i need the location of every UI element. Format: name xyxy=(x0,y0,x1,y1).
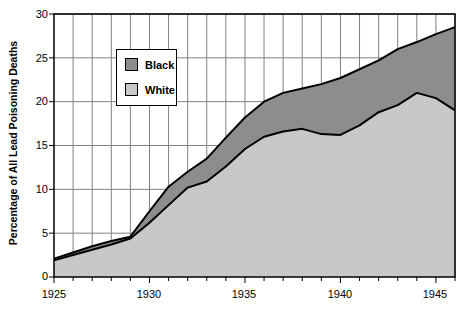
legend-swatch-white-icon xyxy=(125,83,138,96)
legend-label-white: White xyxy=(145,84,175,96)
legend-item-white: White xyxy=(125,83,175,96)
y-tick-label-30: 30 xyxy=(22,9,48,20)
legend-swatch-black-icon xyxy=(125,58,138,71)
y-tick-label-5: 5 xyxy=(22,228,48,239)
x-tick-label-1925: 1925 xyxy=(32,289,76,300)
x-tick-label-1940: 1940 xyxy=(318,289,362,300)
y-tick-label-10: 10 xyxy=(22,184,48,195)
x-tick-label-1930: 1930 xyxy=(127,289,171,300)
x-axis-tick-labels: 1925 1930 1935 1940 1945 xyxy=(0,280,467,309)
x-tick-label-1945: 1945 xyxy=(413,289,457,300)
area-series-layer xyxy=(54,27,455,277)
y-axis-tick-labels: 30 25 20 15 10 5 0 xyxy=(18,0,48,309)
x-tick-label-1935: 1935 xyxy=(222,289,266,300)
plot-area xyxy=(0,0,467,309)
legend: Black White xyxy=(116,49,177,106)
lead-poisoning-area-chart: Percentage of All Lead Poisoning Deaths … xyxy=(0,0,467,309)
legend-item-black: Black xyxy=(125,58,174,71)
y-tick-label-15: 15 xyxy=(22,140,48,151)
legend-label-black: Black xyxy=(145,59,174,71)
y-tick-label-20: 20 xyxy=(22,96,48,107)
y-tick-label-25: 25 xyxy=(22,53,48,64)
